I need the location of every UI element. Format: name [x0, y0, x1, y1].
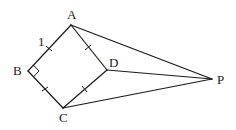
- label-b: B: [13, 63, 22, 78]
- segment-ab: [28, 25, 71, 71]
- label-c: C: [59, 110, 68, 125]
- side-length-label: 1: [38, 34, 45, 49]
- label-a: A: [67, 7, 77, 22]
- segment-cp: [63, 79, 212, 108]
- label-d: D: [109, 55, 118, 70]
- label-p: P: [217, 72, 224, 87]
- geometry-diagram: A B C D P 1: [0, 0, 236, 130]
- right-angle-marker-b: [34, 65, 40, 77]
- segment-dp: [107, 70, 212, 79]
